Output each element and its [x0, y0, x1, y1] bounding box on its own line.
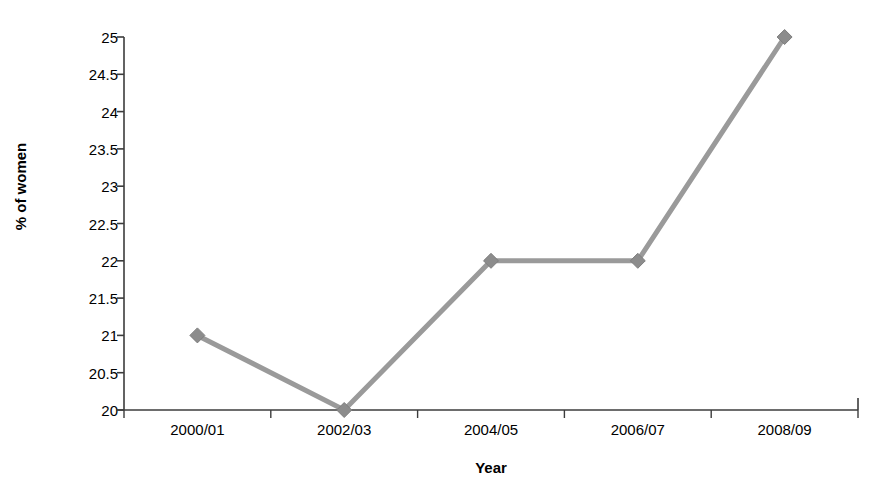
x-axis-tick-labels: 2000/012002/032004/052006/072008/09: [0, 421, 882, 445]
data-series-line: [197, 37, 784, 410]
x-axis-title: Year: [124, 459, 858, 476]
data-point-markers: [190, 30, 792, 418]
x-tick-label: 2000/01: [127, 421, 267, 439]
x-tick-label: 2004/05: [421, 421, 561, 439]
x-tick-label: 2006/07: [568, 421, 708, 439]
x-tick-label: 2002/03: [274, 421, 414, 439]
x-tick-label: 2008/09: [715, 421, 855, 439]
line-chart: % of women 2524.52423.52322.52221.52120.…: [0, 0, 882, 497]
